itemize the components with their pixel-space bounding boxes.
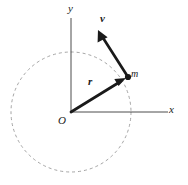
y-axis-label: y [68, 3, 73, 14]
mass-point-label: m [131, 69, 138, 79]
position-vector-shaft [71, 82, 121, 113]
physics-vector-diagram: y x v r m O [0, 0, 188, 185]
x-axis-label: x [169, 104, 174, 115]
position-vector-label: r [88, 76, 92, 87]
origin-label: O [58, 115, 66, 126]
diagram-canvas [0, 0, 188, 185]
velocity-vector-label: v [100, 13, 105, 24]
